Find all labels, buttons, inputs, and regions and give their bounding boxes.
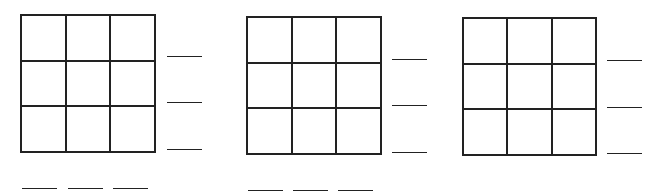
grid-cell[interactable] [463,64,507,110]
grid-cell[interactable] [463,109,507,155]
grid-cell[interactable] [21,15,66,61]
puzzle-grid-1 [20,14,156,153]
grid-cell[interactable] [336,108,381,154]
puzzle-grid-2 [246,16,382,155]
grid-cell[interactable] [21,106,66,152]
grid-cell[interactable] [110,106,155,152]
grid-cell[interactable] [507,109,551,155]
row-answer-blank[interactable] [167,149,202,150]
row-answer-blank[interactable] [167,102,202,103]
col-answer-blank[interactable] [338,190,373,191]
grid-cell[interactable] [552,18,596,64]
grid-cell[interactable] [66,61,111,107]
grid-cell[interactable] [110,61,155,107]
grid-cell[interactable] [21,61,66,107]
row-answer-blank[interactable] [607,60,642,61]
grid-cell[interactable] [336,17,381,63]
grid-cell[interactable] [110,15,155,61]
puzzle-grid-3 [462,17,597,156]
row-answer-blank[interactable] [607,153,642,154]
row-answer-blank[interactable] [167,56,202,57]
grid-cell[interactable] [507,64,551,110]
col-answer-blank[interactable] [248,190,283,191]
grid-cell[interactable] [247,108,292,154]
grid-cell[interactable] [292,108,337,154]
row-answer-blank[interactable] [392,59,427,60]
grid-cell[interactable] [247,63,292,109]
grid-cell[interactable] [66,15,111,61]
row-answer-blank[interactable] [392,152,427,153]
row-answer-blank[interactable] [392,105,427,106]
grid-cell[interactable] [336,63,381,109]
grid-cell[interactable] [552,64,596,110]
grid-cell[interactable] [463,18,507,64]
grid-cell[interactable] [292,17,337,63]
grid-cell[interactable] [66,106,111,152]
col-answer-blank[interactable] [293,190,328,191]
grid-cell[interactable] [292,63,337,109]
col-answer-blank[interactable] [113,188,148,189]
grid-cell[interactable] [507,18,551,64]
grid-cell[interactable] [552,109,596,155]
col-answer-blank[interactable] [68,188,103,189]
row-answer-blank[interactable] [607,107,642,108]
grid-cell[interactable] [247,17,292,63]
col-answer-blank[interactable] [22,188,57,189]
